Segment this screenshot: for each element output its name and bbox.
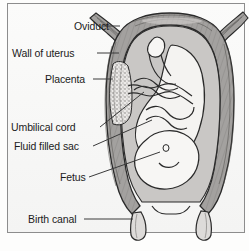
label-oviduct: Oviduct — [74, 21, 109, 32]
label-placenta: Placenta — [45, 74, 85, 85]
birth-canal-shape — [131, 206, 212, 240]
label-fetus: Fetus — [60, 172, 86, 183]
label-fluid-filled-sac: Fluid filled sac — [14, 141, 79, 152]
figure-page: Oviduct Wall of uterus Placenta Umbilica… — [0, 0, 249, 251]
label-umbilical-cord: Umbilical cord — [11, 122, 76, 133]
label-wall-of-uterus: Wall of uterus — [12, 48, 74, 59]
label-birth-canal: Birth canal — [28, 214, 77, 225]
